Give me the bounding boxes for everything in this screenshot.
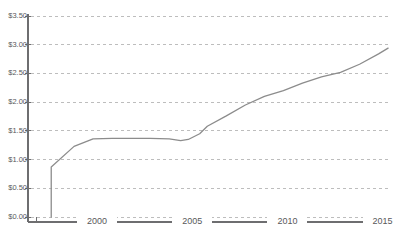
x-axis-tick-label: 2000 bbox=[77, 216, 117, 226]
x-axis-labels: 2000200520102015 bbox=[0, 0, 401, 239]
chart-container: $3.50$3.00$2.50$2.00$1.50$1.00$0.50$0.00… bbox=[0, 0, 401, 239]
x-axis-tick-label: 2005 bbox=[172, 216, 212, 226]
x-axis-tick-label: 2010 bbox=[267, 216, 307, 226]
x-axis-tick-label: 2015 bbox=[363, 216, 401, 226]
